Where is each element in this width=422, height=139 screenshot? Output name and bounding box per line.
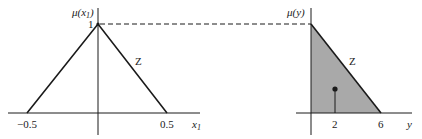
right-x-axis-label: y [406, 118, 412, 130]
right-set-label: Z [349, 55, 356, 67]
left-membership-triangle [27, 24, 167, 113]
peak-point [96, 22, 99, 25]
y-tick-six: 6 [378, 118, 384, 130]
y-tick-two: 2 [332, 118, 338, 130]
x-tick-neg-half: −0.5 [17, 118, 37, 130]
y-tick-one: 1 [88, 18, 94, 30]
fuzzy-diagram: μ(x1) 1 Z −0.5 0.5 x1 μ(y) Z 2 6 y [0, 0, 422, 139]
x-tick-pos-half: 0.5 [160, 118, 174, 130]
left-x-axis-label: x1 [191, 118, 201, 132]
left-set-label: Z [135, 55, 142, 67]
right-y-axis-label: μ(y) [286, 6, 305, 19]
right-plot: μ(y) Z 2 6 y [286, 6, 412, 135]
centroid-marker [332, 86, 337, 91]
left-plot: μ(x1) 1 Z −0.5 0.5 x1 [8, 6, 201, 135]
